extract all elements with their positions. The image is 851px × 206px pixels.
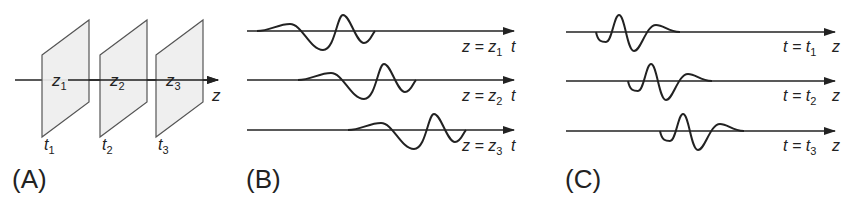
row-1-eq: z = z1 [461, 38, 502, 58]
z-axis-label: z [211, 86, 221, 105]
wave-row-1: z = z1 t [247, 15, 516, 58]
wave-row-3: z = z3 t [247, 114, 516, 157]
panel-b-label: (B) [246, 164, 281, 194]
t-axis-label: t [511, 137, 516, 154]
row-2-eq: z = z2 [461, 87, 502, 107]
pulse-row-3: t = t3 z [566, 114, 840, 157]
plane-2-time-label: t2 [102, 136, 113, 156]
panel-a-label: (A) [12, 164, 47, 194]
figure: z1 z2 z3 z t1 t2 t3 (A) z = z1 t z = z2 … [0, 0, 851, 206]
plane-1 [42, 20, 89, 137]
z-axis-label: z [831, 38, 840, 55]
panel-c: t = t1 z t = t2 z t = t3 z (C) [565, 15, 840, 194]
row-1-eq: t = t1 [783, 38, 816, 58]
plane-2 [100, 20, 147, 137]
panel-c-label: (C) [565, 164, 601, 194]
panel-b: z = z1 t z = z2 t z = z3 t (B) [246, 15, 516, 194]
plane-3-time-label: t3 [158, 136, 169, 156]
panel-a: z1 z2 z3 z t1 t2 t3 (A) [12, 20, 221, 194]
t-axis-label: t [511, 38, 516, 55]
pulse-row-1: t = t1 z [566, 15, 840, 58]
plane-3 [156, 20, 203, 137]
row-2-eq: t = t2 [783, 87, 816, 107]
t-axis-label: t [511, 87, 516, 104]
row-3-eq: z = z3 [461, 137, 502, 157]
z-axis-label: z [831, 137, 840, 154]
row-3-eq: t = t3 [783, 137, 816, 157]
wave-row-2: z = z2 t [247, 64, 516, 107]
pulse-row-2: t = t2 z [566, 64, 840, 107]
plane-1-time-label: t1 [44, 136, 55, 156]
z-axis-label: z [831, 87, 840, 104]
